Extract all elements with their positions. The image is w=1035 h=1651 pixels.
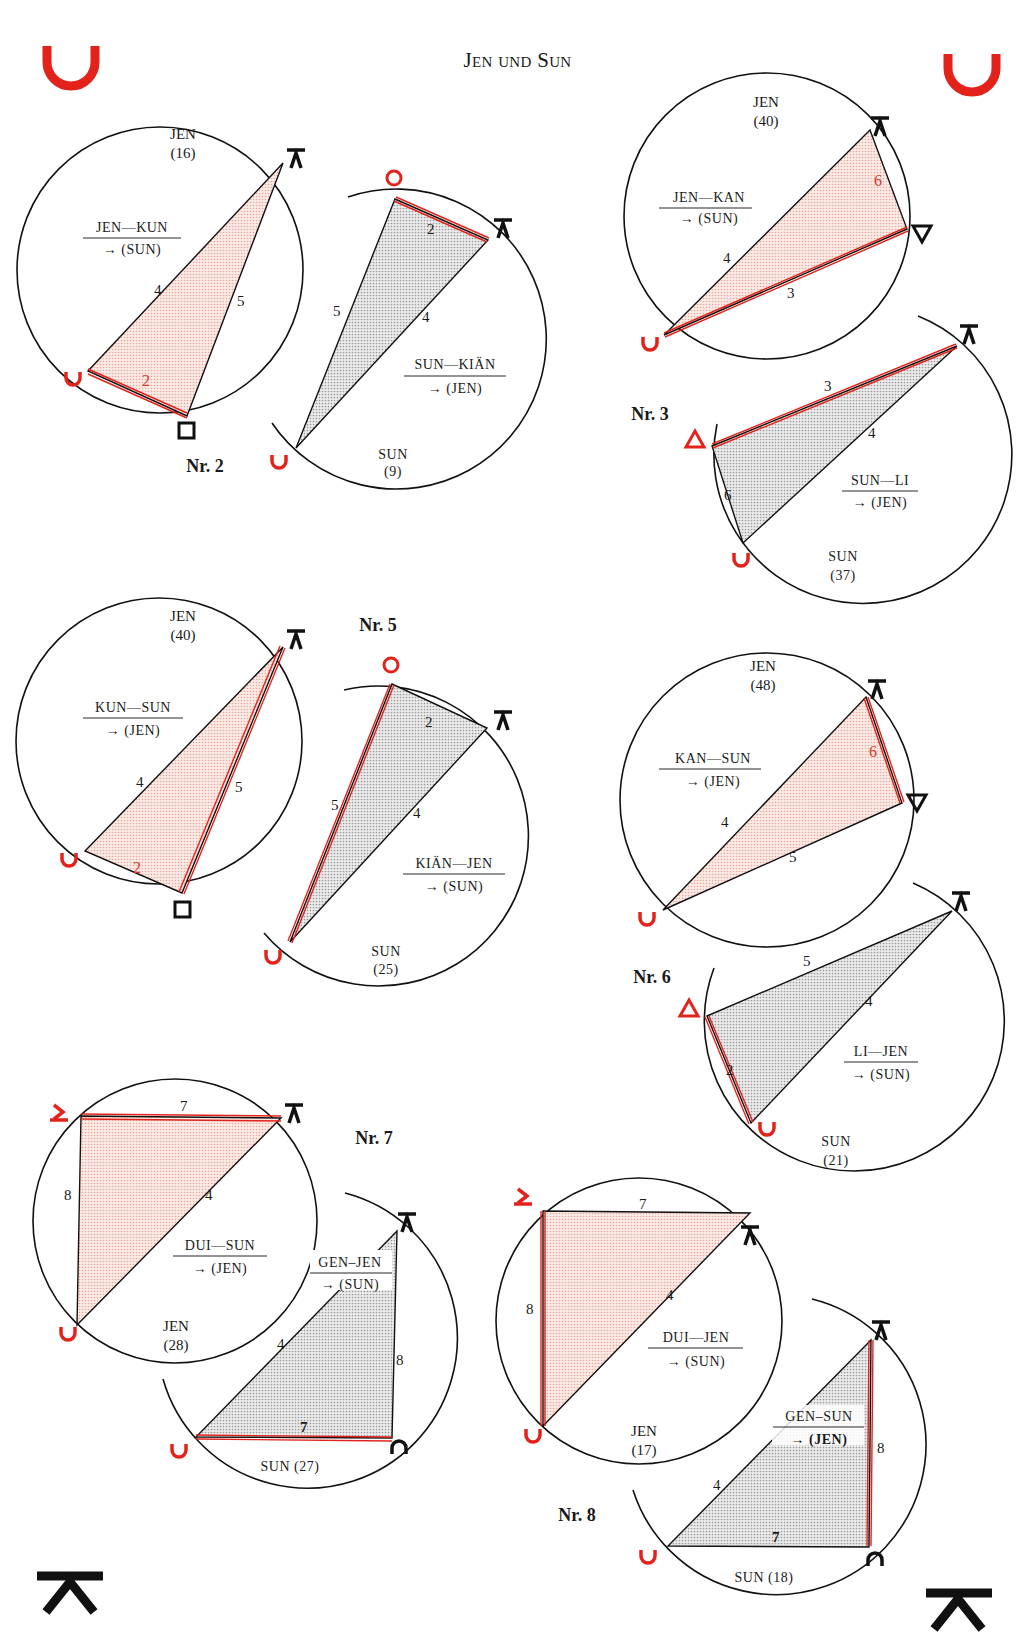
side-length: 3 — [824, 378, 832, 394]
side-length: 8 — [396, 1352, 404, 1368]
triangle-up-symbol-icon — [686, 431, 704, 447]
circle-name-number: SUN (27) — [261, 1459, 320, 1475]
diagram-number: Nr. 7 — [355, 1128, 392, 1148]
trigram-k-icon — [398, 1214, 416, 1232]
trigram-u-icon — [640, 912, 654, 925]
jen-triangle — [664, 130, 907, 335]
trigram-k-icon — [287, 150, 305, 168]
side-length: 4 — [865, 993, 873, 1009]
corner-trigram-top-left-icon — [47, 46, 95, 86]
trigram-pair: DUI—SUN — [185, 1238, 255, 1253]
square-symbol-icon — [179, 423, 194, 438]
jen-triangle — [85, 647, 283, 893]
circle-name: JEN — [750, 658, 776, 674]
circle-name: SUN — [821, 1134, 851, 1149]
side-length: 8 — [64, 1187, 72, 1203]
side-length: 4 — [277, 1336, 285, 1352]
side-length: 7 — [300, 1419, 308, 1435]
circle-number: (17) — [632, 1442, 657, 1459]
trigram-pair: GEN–SUN — [785, 1409, 852, 1424]
side-length: 4 — [666, 1287, 674, 1303]
circle-name: JEN — [170, 126, 196, 142]
diagram-nr-6: JEN (48) KAN—SUN → (JEN) 4 5 6 Nr. 6 5 4… — [620, 653, 1004, 1171]
trigram-u-icon — [272, 455, 286, 468]
circle-number: (21) — [823, 1153, 848, 1169]
trigram-target: → (SUN) — [321, 1277, 379, 1293]
corner-trigram-top-right-icon — [948, 54, 996, 92]
diagram-number: Nr. 6 — [633, 967, 670, 987]
trigram-pair: DUI—JEN — [663, 1330, 730, 1345]
jen-triangle — [543, 1211, 750, 1426]
trigram-u-icon — [643, 337, 657, 350]
circle-name: JEN — [753, 94, 779, 110]
side-length: 4 — [713, 1477, 721, 1493]
side-length: 5 — [333, 303, 341, 319]
diagram-nr-2: JEN (16) JEN—KUN → (SUN) 4 5 2 Nr. 2 2 5… — [17, 126, 546, 489]
sun-triangle — [296, 199, 488, 448]
side-length: 5 — [235, 779, 243, 795]
side-length: 5 — [789, 849, 797, 865]
trigram-u-icon — [734, 553, 748, 566]
jen-triangle — [663, 697, 902, 910]
side-length: 2 — [425, 714, 433, 730]
circle-name: SUN — [371, 944, 401, 959]
trigram-u-icon — [61, 1327, 75, 1340]
circle-name: JEN — [163, 1318, 189, 1334]
trigram-pair: JEN—KAN — [673, 190, 745, 205]
trigram-target: → (JEN) — [853, 495, 907, 511]
trigram-k-rotated-icon — [50, 1105, 68, 1120]
jen-triangle — [77, 1116, 281, 1325]
diagram-nr-3: JEN (40) JEN—KAN → (SUN) 4 3 6 Nr. 3 3 4… — [624, 73, 1012, 603]
trigram-u-icon — [266, 950, 280, 963]
side-length: 5 — [237, 293, 245, 309]
side-length: 7 — [639, 1196, 647, 1212]
circle-name: SUN — [828, 549, 858, 564]
trigram-k-icon — [741, 1227, 759, 1245]
trigram-target: → (SUN) — [103, 242, 161, 258]
trigram-pair: KAN—SUN — [675, 751, 751, 766]
side-length: 7 — [180, 1098, 188, 1114]
circle-name: JEN — [170, 608, 196, 624]
trigram-target: → (SUN) — [680, 211, 738, 227]
circle-number: (48) — [751, 677, 776, 694]
trigram-k-icon — [952, 893, 970, 911]
side-length: 4 — [868, 425, 876, 441]
circle-number: (16) — [171, 145, 196, 162]
trigram-u-icon — [172, 1444, 186, 1457]
circle-symbol-icon — [387, 171, 401, 185]
trigram-pair: LI—JEN — [854, 1044, 908, 1059]
trigram-target: → (JEN) — [686, 774, 740, 790]
diagram-number: Nr. 2 — [186, 456, 223, 476]
side-length: 2 — [427, 221, 435, 237]
circle-name: JEN — [631, 1423, 657, 1439]
trigram-k-rotated-icon — [514, 1189, 532, 1204]
side-length: 4 — [723, 250, 731, 266]
side-length: 5 — [803, 953, 811, 969]
trigram-k-icon — [285, 1105, 303, 1123]
circle-symbol-icon — [384, 658, 398, 672]
trigram-k-icon — [960, 326, 978, 344]
trigram-pair: GEN–JEN — [318, 1255, 381, 1270]
square-symbol-icon — [175, 902, 190, 917]
trigram-u-icon — [526, 1429, 540, 1442]
side-length: 5 — [331, 797, 339, 813]
trigram-target: → (JEN) — [791, 1432, 848, 1448]
trigram-n-icon — [868, 1553, 882, 1566]
diagram-nr-5: JEN (40) KUN—SUN → (JEN) 4 5 2 Nr. 5 2 5… — [16, 598, 528, 986]
trigram-k-icon — [287, 631, 305, 649]
corner-trigram-bottom-left-icon — [37, 1576, 103, 1612]
side-length: 8 — [877, 1440, 885, 1456]
circle-number: (37) — [830, 568, 855, 584]
trigram-target: → (SUN) — [852, 1067, 910, 1083]
side-length: 4 — [205, 1187, 213, 1203]
triangle-down-symbol-icon — [913, 226, 931, 242]
corner-trigram-bottom-right-icon — [926, 1593, 992, 1629]
diagram-nr-7: 7 8 4 DUI—SUN → (JEN) JEN (28) Nr. 7 GEN… — [33, 1079, 457, 1488]
side-length: 2 — [142, 372, 150, 389]
side-length: 6 — [724, 487, 732, 503]
trigram-pair: SUN—KIÄN — [415, 356, 496, 372]
sun-triangle — [707, 911, 952, 1123]
triangle-up-symbol-icon — [680, 1000, 698, 1016]
trigram-pair: JEN—KUN — [96, 220, 168, 235]
side-length: 4 — [422, 309, 430, 325]
